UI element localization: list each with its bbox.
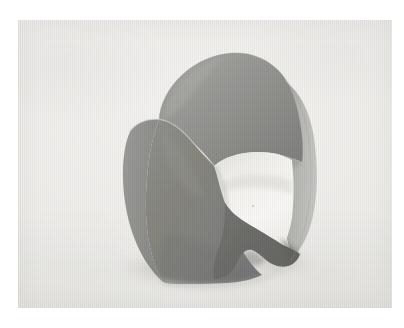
photograph	[18, 20, 392, 308]
sculpture-illustration	[18, 20, 392, 308]
page-root	[0, 0, 404, 328]
interior-speck	[252, 205, 255, 207]
